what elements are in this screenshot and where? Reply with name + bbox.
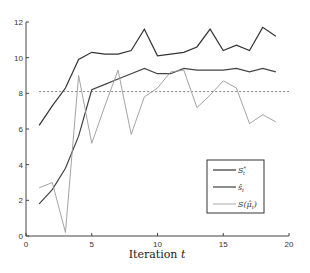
y-ticks: 024681012 [14,18,29,241]
x-axis-label: Iteration t [129,248,186,261]
x-tick-label: 15 [219,240,228,249]
y-tick-label: 10 [14,54,23,63]
x-tick-label: 20 [285,240,294,249]
x-ticks: 05101520 [24,233,294,249]
legend-label: S(μ̂t) [238,200,257,210]
legend: S*t ŝt S(μ̂t) [207,160,264,213]
line-chart: 024681012 05101520 Iteration t S*t ŝt S(… [0,0,310,273]
series-line-0 [39,27,276,125]
y-tick-label: 8 [19,89,24,98]
y-tick-label: 4 [19,161,24,170]
y-tick-label: 12 [14,18,23,27]
x-tick-label: 0 [24,240,29,249]
x-tick-label: 5 [90,240,95,249]
y-tick-label: 6 [19,125,24,134]
y-tick-label: 2 [19,196,24,205]
axes: 024681012 05101520 [14,18,294,249]
